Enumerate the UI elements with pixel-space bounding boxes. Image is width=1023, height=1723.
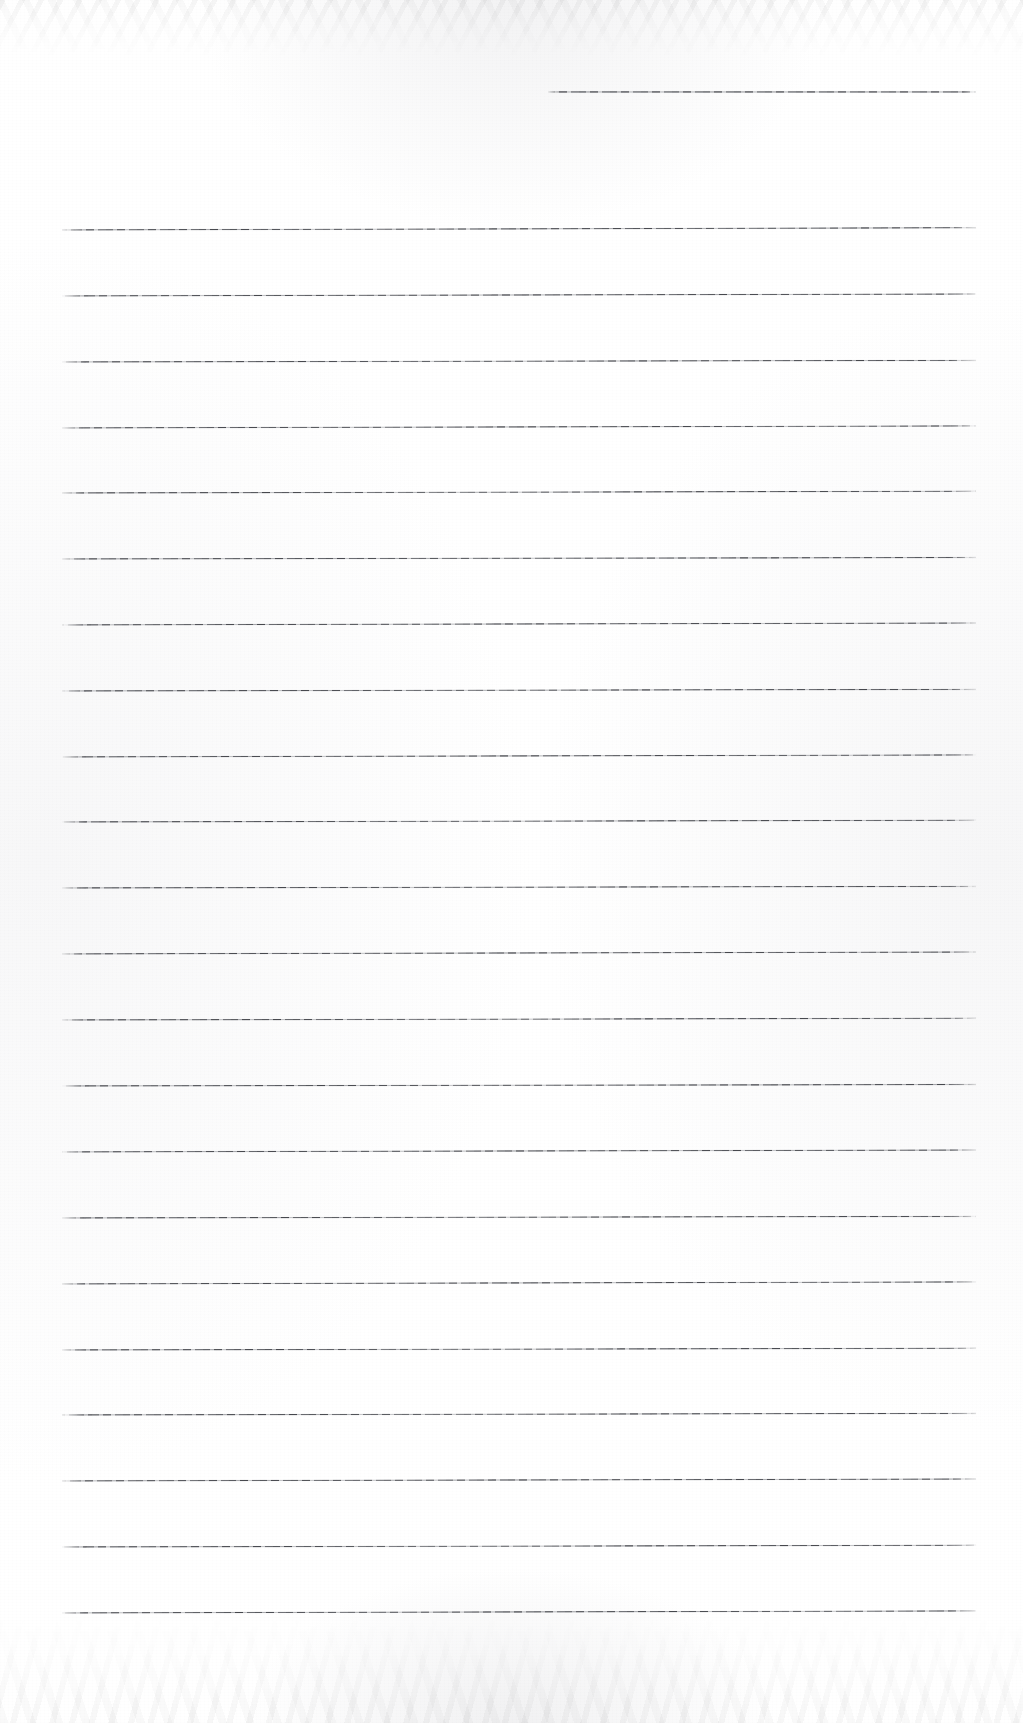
ruled-line [62,293,976,297]
ruled-line [62,1412,976,1416]
ruled-line [62,425,976,429]
ruled-line [62,1610,976,1614]
ruled-line [62,1478,976,1482]
ruled-lines-layer [0,0,1023,1723]
ruled-line [62,688,976,692]
ruled-line [62,557,976,560]
ruled-line [62,951,976,955]
scanned-page [0,0,1023,1723]
ruled-line-partial-top [548,91,976,93]
ruled-line [62,1215,976,1219]
ruled-line [62,622,976,626]
ruled-line [62,490,976,494]
ruled-line [62,1544,976,1548]
ruled-line [62,1281,976,1285]
ruled-line [62,1149,976,1153]
ruled-line [62,1084,976,1087]
ruled-line [62,359,976,363]
ruled-line [62,754,976,758]
ruled-line [62,885,976,889]
ruled-line [62,1347,976,1351]
ruled-line [62,819,976,823]
ruled-line [62,227,976,231]
ruled-line [62,1017,976,1021]
